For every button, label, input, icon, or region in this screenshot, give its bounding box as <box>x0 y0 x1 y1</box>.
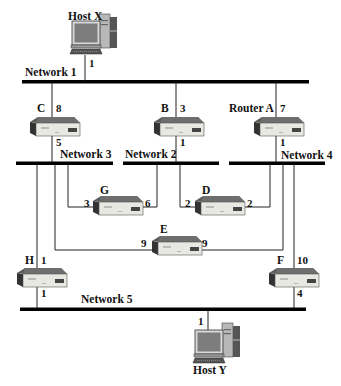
router-a-label: Router A <box>229 103 274 115</box>
network-diagram <box>0 0 341 386</box>
router-d-label: D <box>202 185 210 197</box>
router-f-port-bottom: 4 <box>297 288 303 299</box>
host-x-label: Host X <box>68 11 102 23</box>
router-c-label: C <box>37 103 45 115</box>
router-g-icon <box>93 196 143 215</box>
network-2-label: Network 2 <box>125 149 176 161</box>
router-e-icon <box>152 236 202 255</box>
network-2-bus <box>123 162 219 166</box>
network-5-bus <box>20 308 306 312</box>
router-b-label: B <box>161 103 169 115</box>
router-e-port-left: 9 <box>141 238 147 249</box>
router-e-label: E <box>160 224 168 236</box>
router-b-port-top: 3 <box>180 103 186 114</box>
router-d-port-left: 2 <box>185 198 191 209</box>
router-b-icon <box>154 117 204 136</box>
network-5-label: Network 5 <box>81 294 132 306</box>
network-3-bus <box>16 162 113 166</box>
router-c-port-top: 8 <box>56 103 62 114</box>
router-h-label: H <box>25 255 34 267</box>
network-1-bus <box>22 80 309 84</box>
host-y-computer-icon <box>193 323 240 363</box>
network-4-bus <box>229 162 325 166</box>
network-4-label: Network 4 <box>281 150 332 162</box>
router-f-port-top: 10 <box>297 255 308 266</box>
router-d-port-right: 2 <box>247 198 253 209</box>
router-a-port-bottom: 1 <box>280 137 286 148</box>
host-y-label: Host Y <box>193 365 227 377</box>
router-h-port-top: 1 <box>41 255 47 266</box>
router-g-label: G <box>100 185 109 197</box>
router-e-port-right: 9 <box>202 238 208 249</box>
router-h-icon <box>17 268 67 287</box>
router-g-port-right: 6 <box>145 198 151 209</box>
router-b-port-bottom: 1 <box>180 137 186 148</box>
router-a-port-top: 7 <box>280 103 286 114</box>
host-y-port: 1 <box>198 316 204 327</box>
router-d-icon <box>195 196 245 215</box>
router-f-icon <box>269 268 319 287</box>
host-x-port: 1 <box>89 58 95 69</box>
router-g-port-left: 3 <box>84 198 90 209</box>
network-3-label: Network 3 <box>60 149 111 161</box>
router-c-port-bottom: 5 <box>56 137 62 148</box>
router-f-label: F <box>277 255 284 267</box>
network-1-label: Network 1 <box>25 67 76 79</box>
links <box>37 55 294 332</box>
router-c-icon <box>30 117 80 136</box>
router-a-icon <box>254 117 304 136</box>
router-h-port-bottom: 1 <box>41 288 47 299</box>
